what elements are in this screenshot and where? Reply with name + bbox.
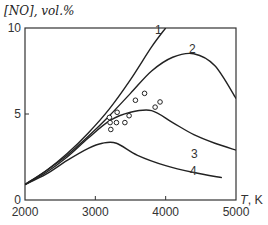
curve-1	[25, 28, 166, 185]
x-tick-label: 2000	[12, 205, 39, 219]
curve-label-1: 1	[155, 23, 162, 37]
data-point	[123, 120, 128, 125]
curve-label-2: 2	[189, 42, 196, 56]
data-point	[153, 105, 158, 110]
y-tick-label: 0	[14, 193, 21, 207]
data-point	[127, 113, 132, 118]
curve-3	[25, 110, 236, 185]
x-tick-label: 5000	[223, 205, 250, 219]
x-tick-label: 3000	[82, 205, 109, 219]
data-point	[133, 98, 138, 103]
curve-label-4: 4	[190, 164, 197, 178]
x-tick-label: 4000	[152, 205, 179, 219]
data-point	[107, 115, 112, 120]
axis-ticks: 20003000400050000510	[8, 21, 250, 219]
y-tick-label: 10	[8, 21, 22, 35]
data-point	[115, 110, 120, 115]
data-point	[114, 120, 119, 125]
data-point	[142, 91, 147, 96]
curve-label-3: 3	[191, 147, 198, 161]
curves	[25, 28, 236, 185]
y-tick-label: 5	[14, 107, 21, 121]
data-point	[109, 127, 114, 132]
data-point	[108, 120, 113, 125]
data-point	[158, 100, 163, 105]
chart-plot: 20003000400050000510 1234	[0, 0, 268, 225]
